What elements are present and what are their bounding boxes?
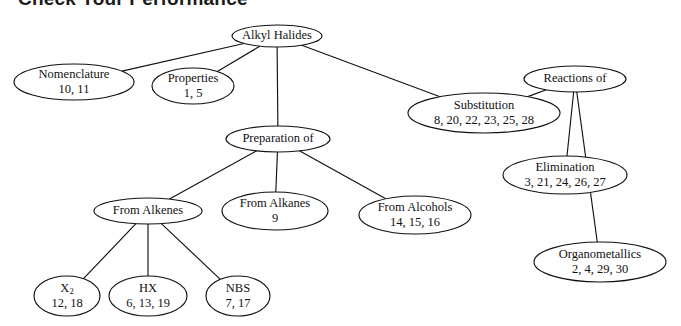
node-label-from-alkanes: From Alkanes [240,196,311,210]
edge-preparation-of-to-from-alcohols [299,151,385,199]
node-properties[interactable]: Properties1, 5 [152,68,234,104]
node-numbers-from-alcohols: 14, 15, 16 [390,215,440,229]
concept-map-canvas: Alkyl HalidesNomenclature10, 11Propertie… [0,0,681,326]
edge-alkyl-halides-to-properties [217,46,260,71]
node-nbs[interactable]: NBS7, 17 [206,276,270,316]
node-hx[interactable]: HX6, 13, 19 [109,276,187,316]
node-substitution[interactable]: Substitution8, 20, 22, 23, 25, 28 [408,93,560,133]
node-from-alkanes[interactable]: From Alkanes9 [222,192,328,230]
node-x2[interactable]: X212, 18 [34,276,100,316]
node-organometallics[interactable]: Organometallics2, 4, 29, 30 [534,242,666,282]
node-numbers-organometallics: 2, 4, 29, 30 [572,262,628,276]
edge-reactions-of-to-substitution [528,90,547,97]
edge-reactions-of-to-elimination [567,92,574,156]
node-preparation-of[interactable]: Preparation of [226,126,330,152]
node-numbers-substitution: 8, 20, 22, 23, 25, 28 [434,113,534,127]
edge-preparation-of-to-from-alkanes [276,152,278,192]
node-label-properties: Properties [168,71,219,85]
node-label-preparation-of: Preparation of [242,131,314,145]
node-label-elimination: Elimination [535,160,595,174]
node-label-alkyl-halides: Alkyl Halides [242,28,312,42]
node-label-substitution: Substitution [454,98,515,112]
node-numbers-nbs: 7, 17 [226,296,251,310]
edge-alkyl-halides-to-substitution [302,45,440,96]
node-label-nomenclature: Nomenclature [39,67,110,81]
node-numbers-nomenclature: 10, 11 [59,82,90,96]
nodes-layer: Alkyl HalidesNomenclature10, 11Propertie… [14,25,666,316]
node-numbers-properties: 1, 5 [184,86,203,100]
node-numbers-hx: 6, 13, 19 [126,296,170,310]
node-reactions-of[interactable]: Reactions of [524,66,626,92]
concept-map-page: Check Your Performance Alkyl HalidesNome… [0,0,681,326]
node-nomenclature[interactable]: Nomenclature10, 11 [14,64,134,100]
node-elimination[interactable]: Elimination3, 21, 24, 26, 27 [503,156,627,194]
node-label-reactions-of: Reactions of [544,71,608,85]
node-from-alkenes[interactable]: From Alkenes [94,198,202,224]
node-label-hx: HX [139,281,157,295]
node-label-organometallics: Organometallics [559,247,642,261]
node-label-nbs: NBS [226,281,250,295]
edge-from-alkenes-to-nbs [161,224,220,280]
node-alkyl-halides[interactable]: Alkyl Halides [232,25,322,47]
node-numbers-elimination: 3, 21, 24, 26, 27 [524,175,605,189]
edge-from-alkenes-to-x2 [84,224,136,279]
node-from-alcohols[interactable]: From Alcohols14, 15, 16 [359,196,471,234]
node-numbers-x2: 12, 18 [51,296,82,310]
node-numbers-from-alkanes: 9 [272,211,278,225]
edge-preparation-of-to-from-alkenes [170,151,257,199]
edge-alkyl-halides-to-preparation-of [277,47,278,126]
node-label-from-alkenes: From Alkenes [113,203,184,217]
node-label-from-alcohols: From Alcohols [378,200,453,214]
